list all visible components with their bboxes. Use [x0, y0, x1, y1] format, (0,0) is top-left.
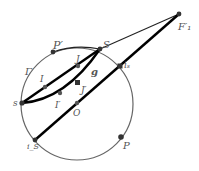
point-J-prime: [75, 80, 80, 85]
line-s-to-f1-prime: [100, 14, 179, 49]
label-I: I: [39, 74, 44, 84]
point-s: [19, 100, 24, 105]
label-s: s: [13, 98, 18, 108]
point-P: [118, 134, 124, 140]
point-i-s: [118, 64, 123, 69]
label-i-s: iₛ: [124, 60, 130, 70]
label-gamma: Γ: [24, 66, 33, 77]
label-p-prime: P′: [52, 39, 63, 52]
label-J-prime: J′: [79, 85, 87, 95]
point-J: [76, 64, 80, 68]
label-i-S: i_S: [27, 142, 40, 151]
label-S: S: [103, 39, 110, 50]
label-g: g: [91, 66, 98, 77]
label-P: P: [122, 140, 130, 151]
point-S: [98, 47, 103, 52]
point-O: [75, 101, 79, 105]
point-f1-prime: [177, 12, 182, 17]
label-O: O: [73, 108, 81, 118]
point-I-prime: [58, 91, 62, 95]
point-I: [43, 85, 47, 89]
line-iS-to-f1-prime: [35, 14, 179, 140]
label-I-prime: I′: [54, 100, 61, 110]
geometry-diagram: Γ P′ S F′₁ s I J g J′ I′ O iₛ i_S P: [0, 0, 199, 171]
label-f1-prime: F′₁: [177, 21, 191, 32]
